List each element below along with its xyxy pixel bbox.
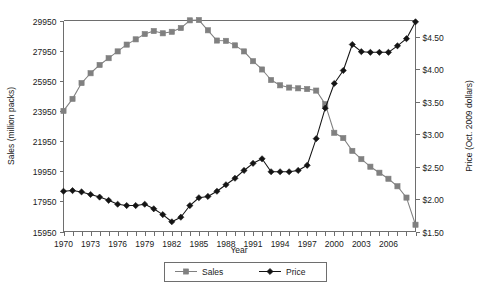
left-tick-label: 23950 [33, 107, 57, 117]
data-point-sales [404, 195, 409, 200]
data-point-sales [142, 31, 147, 36]
data-point-sales [413, 222, 418, 227]
legend-swatch-marker [183, 269, 188, 274]
data-point-sales [341, 135, 346, 140]
data-point-sales [97, 62, 102, 67]
right-tick-label: $4.00 [423, 65, 445, 75]
left-tick-label: 17950 [33, 197, 57, 207]
right-tick-label: $1.50 [423, 228, 445, 238]
x-axis-title: Year [230, 245, 247, 255]
data-point-sales [88, 71, 93, 76]
left-tick-label: 29950 [33, 17, 57, 27]
x-tick-label: 1985 [189, 239, 208, 249]
data-point-sales [278, 83, 283, 88]
left-tick-label: 25950 [33, 77, 57, 87]
right-tick-label: $3.50 [423, 98, 445, 108]
x-tick-label: 1982 [162, 239, 181, 249]
x-tick-label: 2003 [352, 239, 371, 249]
x-tick-label: 1994 [271, 239, 290, 249]
right-tick-label: $2.50 [423, 163, 445, 173]
x-tick-label: 1973 [81, 239, 100, 249]
right-tick-label: $3.00 [423, 130, 445, 140]
data-point-sales [70, 96, 75, 101]
data-point-sales [377, 170, 382, 175]
legend-item-label: Sales [202, 267, 223, 277]
data-point-sales [196, 17, 201, 22]
x-tick-label: 1970 [54, 239, 73, 249]
data-point-sales [359, 157, 364, 162]
right-tick-label: $2.00 [423, 195, 445, 205]
data-point-sales [124, 42, 129, 47]
x-tick-label: 1997 [298, 239, 317, 249]
data-point-sales [133, 37, 138, 42]
data-point-sales [368, 164, 373, 169]
data-point-sales [151, 28, 156, 33]
data-point-sales [115, 49, 120, 54]
data-point-sales [106, 56, 111, 61]
data-point-sales [395, 184, 400, 189]
data-point-sales [232, 43, 237, 48]
data-point-sales [250, 59, 255, 64]
x-tick-label: 1976 [108, 239, 127, 249]
data-point-sales [223, 38, 228, 43]
y2-axis-title: Price (Oct. 2009 dollars) [464, 80, 474, 172]
x-tick-label: 1979 [135, 239, 154, 249]
chart-legend: SalesPrice [165, 263, 327, 282]
legend-item-label: Price [286, 267, 306, 277]
data-point-sales [169, 29, 174, 34]
data-point-sales [160, 31, 165, 36]
data-point-sales [241, 49, 246, 54]
x-tick-label: 2006 [379, 239, 398, 249]
data-point-sales [205, 28, 210, 33]
chart-figure: 1595017950199502195023950259502795029950… [0, 0, 486, 296]
data-point-sales [268, 77, 273, 82]
left-tick-label: 21950 [33, 137, 57, 147]
right-tick-label: $4.50 [423, 33, 445, 43]
dual-axis-line-chart: 1595017950199502195023950259502795029950… [0, 0, 486, 296]
data-point-sales [350, 148, 355, 153]
left-tick-label: 15950 [33, 228, 57, 238]
data-point-sales [296, 86, 301, 91]
x-tick-label: 2000 [325, 239, 344, 249]
data-point-sales [178, 25, 183, 30]
data-point-sales [305, 86, 310, 91]
data-point-sales [61, 108, 66, 113]
data-point-sales [259, 67, 264, 72]
data-point-sales [332, 130, 337, 135]
data-point-sales [287, 85, 292, 90]
data-point-sales [187, 18, 192, 23]
y-axis-title: Sales (million packs) [6, 87, 16, 165]
data-point-sales [314, 88, 319, 93]
left-tick-label: 19950 [33, 167, 57, 177]
left-tick-label: 27950 [33, 47, 57, 57]
data-point-sales [79, 80, 84, 85]
data-point-sales [214, 38, 219, 43]
data-point-sales [386, 176, 391, 181]
